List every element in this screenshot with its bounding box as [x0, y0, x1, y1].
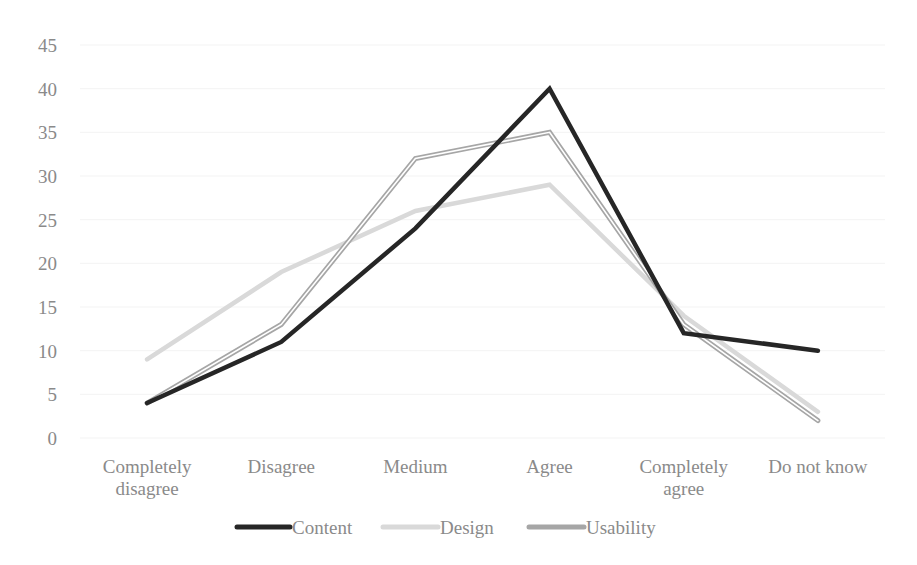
y-tick-label: 0: [48, 428, 58, 449]
line-chart: 051015202530354045 CompletelydisagreeDis…: [0, 0, 917, 565]
series-content: [147, 89, 818, 403]
x-tick-label: Medium: [383, 456, 448, 477]
y-tick-label: 30: [38, 166, 57, 187]
y-tick-label: 10: [38, 341, 57, 362]
legend: ContentDesignUsability: [237, 517, 656, 538]
legend-label: Design: [440, 517, 494, 538]
series-design: [147, 185, 818, 412]
legend-item-usability: Usability: [529, 517, 656, 538]
y-tick-label: 40: [38, 79, 57, 100]
y-tick-label: 25: [38, 210, 57, 231]
x-tick-label: Disagree: [247, 456, 315, 477]
y-tick-label: 35: [38, 122, 57, 143]
x-tick-label: Completelydisagree: [103, 456, 192, 499]
y-tick-label: 5: [48, 384, 58, 405]
legend-label: Usability: [586, 517, 656, 538]
y-tick-label: 20: [38, 253, 57, 274]
x-axis: CompletelydisagreeDisagreeMediumAgreeCom…: [103, 456, 868, 499]
x-tick-label: Do not know: [768, 456, 868, 477]
y-tick-label: 15: [38, 297, 57, 318]
x-tick-label: Agree: [526, 456, 572, 477]
legend-label: Content: [292, 517, 353, 538]
y-axis: 051015202530354045: [38, 35, 57, 449]
legend-item-design: Design: [383, 517, 494, 538]
y-tick-label: 45: [38, 35, 57, 56]
plot-area: [147, 89, 818, 421]
legend-item-content: Content: [237, 517, 353, 538]
x-tick-label: Completelyagree: [639, 456, 728, 499]
